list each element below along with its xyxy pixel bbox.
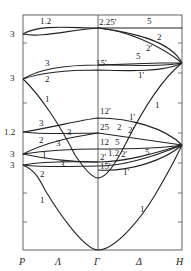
svg-text:1: 1 bbox=[42, 150, 47, 160]
svg-text:12: 12 bbox=[100, 137, 109, 147]
svg-text:1: 1 bbox=[40, 195, 45, 205]
svg-text:Δ: Δ bbox=[135, 256, 142, 267]
svg-text:1': 1' bbox=[123, 167, 130, 177]
svg-text:2': 2' bbox=[121, 149, 128, 159]
svg-text:1.2: 1.2 bbox=[40, 16, 51, 26]
svg-text:3: 3 bbox=[10, 73, 15, 83]
svg-text:2: 2 bbox=[157, 32, 162, 42]
svg-text:Λ: Λ bbox=[54, 256, 61, 267]
svg-text:12': 12' bbox=[100, 106, 111, 116]
svg-text:2: 2 bbox=[40, 169, 45, 179]
svg-text:2': 2' bbox=[146, 43, 153, 53]
svg-text:2': 2' bbox=[128, 125, 135, 135]
svg-text:1': 1' bbox=[129, 112, 136, 122]
left-labels: 3 3 1.2 3 3 bbox=[4, 29, 15, 170]
svg-text:5: 5 bbox=[147, 16, 152, 26]
svg-text:2: 2 bbox=[39, 135, 44, 145]
svg-text:3: 3 bbox=[56, 138, 61, 148]
svg-text:3: 3 bbox=[10, 160, 15, 170]
band-labels-left: 1.2 3 2 1 3 3 2 3 1 3 2 1 bbox=[39, 16, 72, 205]
svg-text:2.25': 2.25' bbox=[99, 17, 117, 27]
svg-text:P: P bbox=[18, 256, 25, 267]
svg-text:H: H bbox=[175, 256, 184, 267]
svg-text:15': 15' bbox=[96, 58, 107, 68]
svg-text:1: 1 bbox=[140, 204, 145, 214]
svg-text:2: 2 bbox=[45, 74, 50, 84]
band-structure-diagram: 3 3 1.2 3 3 1.2 3 2 1 3 3 2 3 1 3 2 1 2.… bbox=[0, 0, 191, 271]
svg-text:3: 3 bbox=[60, 159, 65, 169]
svg-text:1: 1 bbox=[155, 100, 160, 110]
svg-text:5: 5 bbox=[115, 137, 120, 147]
svg-text:15': 15' bbox=[100, 161, 111, 171]
svg-text:3: 3 bbox=[45, 58, 50, 68]
svg-text:5: 5 bbox=[145, 147, 150, 157]
svg-text:25: 25 bbox=[100, 122, 110, 132]
svg-text:1: 1 bbox=[45, 94, 50, 104]
svg-text:1.2: 1.2 bbox=[108, 148, 119, 158]
svg-text:3: 3 bbox=[10, 149, 15, 159]
svg-text:Γ: Γ bbox=[93, 256, 100, 267]
svg-text:3: 3 bbox=[10, 29, 15, 39]
svg-text:2: 2 bbox=[117, 122, 122, 132]
svg-text:1': 1' bbox=[138, 70, 145, 80]
svg-text:3: 3 bbox=[39, 118, 44, 128]
plot-frame bbox=[23, 15, 182, 250]
svg-text:3: 3 bbox=[67, 127, 72, 137]
gamma-labels: 2.25' 15' 12' 25 12 2' 1.2 15' bbox=[96, 17, 119, 171]
x-axis-labels: P Λ Γ Δ H bbox=[18, 256, 184, 267]
svg-text:1.2: 1.2 bbox=[4, 127, 15, 137]
svg-text:5: 5 bbox=[136, 51, 141, 61]
